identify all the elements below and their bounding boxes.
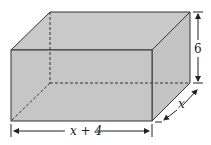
box-diagram: 6 x x + 4 [0, 0, 211, 145]
depth-label: x [178, 97, 185, 111]
width-label: x + 4 [70, 124, 102, 138]
height-label: 6 [194, 42, 202, 56]
front-face [11, 50, 152, 121]
